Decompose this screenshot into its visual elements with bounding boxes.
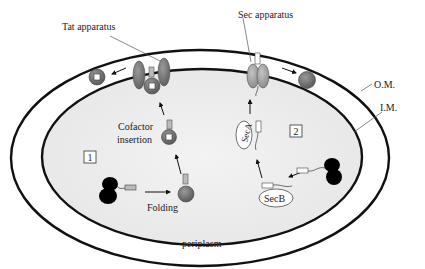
- pathway-2-label: 2: [294, 126, 299, 137]
- tat-subunit-left: [133, 61, 145, 89]
- tat-signal-peptide: [149, 67, 154, 77]
- sec-exported-protein: [299, 72, 316, 89]
- seca-signal-peptide: [256, 121, 261, 132]
- inner-membrane-label: I.M.: [380, 102, 397, 113]
- periplasm-label: periplasm: [182, 238, 222, 249]
- cofactor-insertion-label-2: insertion: [117, 134, 152, 145]
- cofactor-icon: [94, 74, 100, 80]
- tat-apparatus-label: Tat apparatus: [62, 21, 116, 32]
- secb-label: SecB: [264, 193, 285, 204]
- diagram-canvas: SecA SecB Tat apparatus Sec apparatus O.…: [0, 0, 425, 269]
- cell-diagram: SecA SecB Tat apparatus Sec apparatus O.…: [0, 0, 425, 269]
- om-label-leader: [361, 84, 372, 91]
- cofactor-icon: [149, 83, 155, 89]
- tat-subunit-right: [158, 58, 170, 86]
- pathway-1-label: 1: [88, 152, 93, 163]
- folding-label: Folding: [147, 202, 178, 213]
- secb-signal-peptide: [262, 183, 273, 188]
- signal-peptide: [167, 120, 172, 129]
- nascent-signal-peptide: [297, 168, 308, 173]
- cofactor-icon: [166, 134, 172, 140]
- sec-subunit-right: [257, 64, 269, 88]
- nascent-signal-peptide: [125, 185, 136, 190]
- sec-apparatus-label: Sec apparatus: [238, 9, 293, 20]
- cofactor-insertion-label-1: Cofactor: [118, 121, 154, 132]
- signal-peptide: [183, 174, 188, 184]
- outer-membrane-label: O.M.: [374, 79, 395, 90]
- folded-protein: [178, 186, 194, 202]
- sec-signal-peptide: [255, 53, 260, 64]
